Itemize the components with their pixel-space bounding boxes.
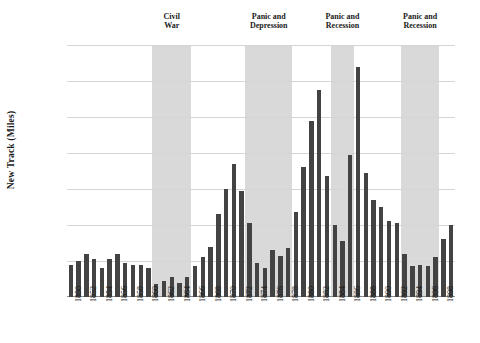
x-axis-tick-label: 1856 — [120, 286, 129, 302]
bar — [100, 268, 104, 297]
bar — [294, 212, 298, 297]
bar — [69, 265, 73, 297]
x-axis-tick-label: 1860 — [151, 286, 160, 302]
chart-container: New Track (Miles) 02,0004,0006,0008,0001… — [0, 0, 480, 343]
x-axis-tick-label: 1884 — [338, 286, 347, 302]
x-axis-tick-label: 1886 — [353, 286, 362, 302]
gridline — [67, 117, 455, 118]
y-axis-title: New Track (Miles) — [2, 0, 20, 300]
x-axis-tick-label: 1896 — [431, 286, 440, 302]
bar — [317, 90, 321, 297]
x-axis-tick-label: 1876 — [276, 286, 285, 302]
bar — [131, 265, 135, 297]
bar — [410, 266, 414, 297]
bar — [177, 283, 181, 297]
bar — [333, 225, 337, 297]
bar — [216, 214, 220, 297]
bar — [208, 247, 212, 297]
bar — [364, 173, 368, 297]
bar — [84, 254, 88, 297]
bar — [270, 250, 274, 297]
bar — [371, 200, 375, 297]
bar — [224, 189, 228, 297]
gridline — [67, 153, 455, 154]
x-axis-tick-label: 1864 — [183, 286, 192, 302]
x-axis-tick-label: 1872 — [245, 286, 254, 302]
bar — [426, 266, 430, 297]
bar — [255, 263, 259, 297]
y-axis-title-text: New Track (Miles) — [6, 111, 16, 190]
gridline — [67, 189, 455, 190]
plot-area — [67, 45, 455, 297]
bar — [162, 281, 166, 297]
x-axis-tick-labels: 1850185218541856185818601862186418661868… — [67, 0, 455, 60]
x-axis-tick-label: 1854 — [105, 286, 114, 302]
gridline — [67, 81, 455, 82]
bar — [301, 167, 305, 297]
bar — [379, 207, 383, 297]
bar — [348, 155, 352, 297]
x-axis-tick-label: 1858 — [136, 286, 145, 302]
x-axis-tick-label: 1878 — [291, 286, 300, 302]
annotation-band — [152, 45, 191, 297]
x-axis-tick-label: 1866 — [198, 286, 207, 302]
x-axis-tick-label: 1870 — [229, 286, 238, 302]
bar — [356, 67, 360, 297]
bar — [193, 266, 197, 297]
x-axis-tick-label: 1888 — [369, 286, 378, 302]
x-axis-tick-label: 1892 — [400, 286, 409, 302]
x-axis-tick-label: 1862 — [167, 286, 176, 302]
bar — [325, 176, 329, 297]
x-axis-tick-label: 1898 — [446, 286, 455, 302]
x-axis-tick-label: 1882 — [322, 286, 331, 302]
x-axis-tick-label: 1874 — [260, 286, 269, 302]
bar — [441, 239, 445, 297]
x-axis-tick-label: 1868 — [214, 286, 223, 302]
bar — [232, 164, 236, 297]
bar — [309, 121, 313, 297]
bar — [115, 254, 119, 297]
bar — [146, 268, 150, 297]
x-axis-tick-label: 1894 — [415, 286, 424, 302]
bar — [239, 191, 243, 297]
bar — [286, 248, 290, 297]
bar — [395, 223, 399, 297]
x-axis-tick-label: 1880 — [307, 286, 316, 302]
x-axis-tick-label: 1890 — [384, 286, 393, 302]
x-axis-tick-label: 1850 — [74, 286, 83, 302]
x-axis-tick-label: 1852 — [89, 286, 98, 302]
